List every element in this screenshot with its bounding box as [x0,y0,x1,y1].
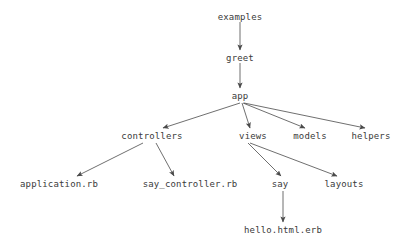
edge-app-to-models [243,103,305,128]
node-application-rb: application.rb [20,179,98,189]
edge-views-to-layouts [250,143,337,176]
node-say: say [272,179,289,189]
node-helpers: helpers [352,131,391,141]
node-controllers: controllers [121,131,182,141]
edge-views-to-say [248,143,281,176]
edge-controllers-to-say_controller_rb [156,143,174,176]
edge-app-to-helpers [244,103,365,128]
diagram-edges [0,0,404,248]
edge-app-to-controllers [163,103,240,128]
node-app: app [232,91,249,101]
edge-app-to-views [242,103,250,128]
node-models: models [293,131,326,141]
node-greet: greet [226,53,254,63]
node-layouts: layouts [325,179,364,189]
node-hello-html-erb: hello.html.erb [244,225,322,235]
node-views: views [239,131,267,141]
node-examples: examples [218,12,263,22]
edge-controllers-to-application_rb [77,143,143,176]
node-say-controller-rb: say_controller.rb [143,179,238,189]
diagram-canvas: examples greet app controllers views mod… [0,0,404,248]
